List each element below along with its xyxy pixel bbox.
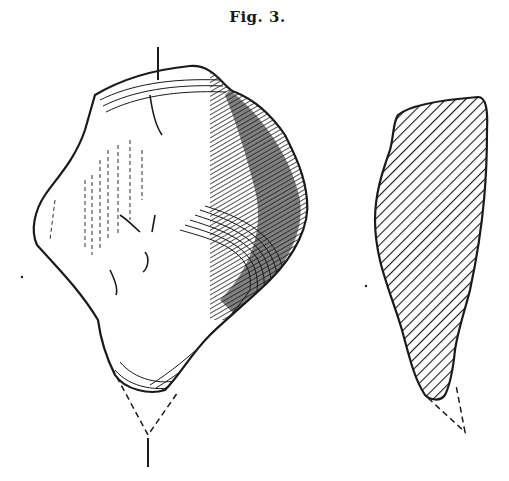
exterior-view <box>21 47 320 467</box>
dashed-tip-left <box>112 368 178 435</box>
cross-section <box>365 97 487 432</box>
figure-drawing <box>0 0 509 481</box>
